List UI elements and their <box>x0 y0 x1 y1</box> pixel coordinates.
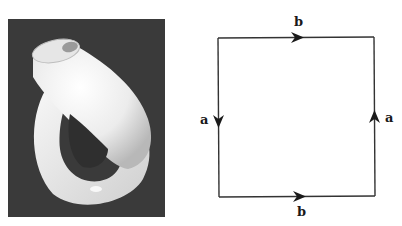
edge-label-left: a <box>200 113 208 126</box>
klein-bottle-illustration <box>8 19 165 217</box>
fundamental-polygon-diagram: b b a a <box>190 0 402 226</box>
edge-label-right: a <box>385 111 393 124</box>
edge-label-top: b <box>294 15 303 28</box>
left-edge <box>218 38 219 197</box>
square-edges <box>190 0 402 226</box>
edge-label-bottom: b <box>297 205 306 218</box>
klein-bottle-photo <box>8 19 165 217</box>
